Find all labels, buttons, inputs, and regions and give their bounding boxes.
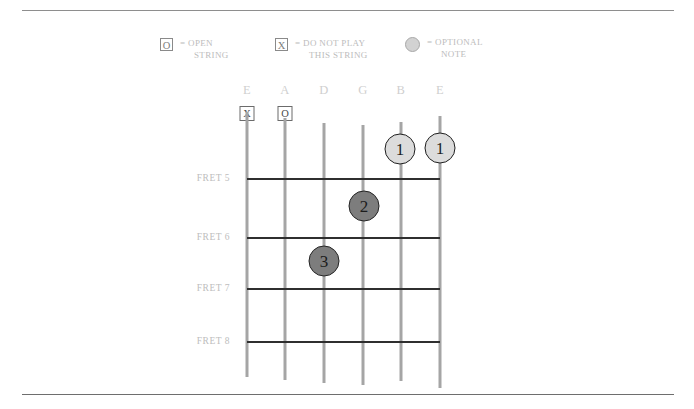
finger-position-3-string-D: 3 bbox=[309, 246, 340, 277]
chord-diagram: EXAODGBEFRET 5FRET 6FRET 7FRET 81123 bbox=[0, 0, 694, 409]
fret-label-7: FRET 7 bbox=[130, 284, 230, 294]
string-label-e: E bbox=[436, 84, 444, 97]
finger-position-1-string-e: 1 bbox=[425, 133, 456, 164]
string-label-G: G bbox=[358, 84, 368, 97]
fret-line-8 bbox=[247, 341, 440, 343]
finger-position-2-string-G: 2 bbox=[349, 191, 380, 222]
string-E bbox=[246, 112, 249, 377]
fret-line-7 bbox=[247, 288, 440, 290]
fret-label-8: FRET 8 bbox=[130, 337, 230, 347]
fret-label-5: FRET 5 bbox=[130, 174, 230, 184]
string-G bbox=[362, 125, 365, 385]
fret-line-6 bbox=[247, 237, 440, 239]
string-label-D: D bbox=[319, 84, 329, 97]
string-label-A: A bbox=[280, 84, 290, 97]
fret-label-6: FRET 6 bbox=[130, 233, 230, 243]
string-label-E: E bbox=[243, 84, 251, 97]
fret-line-5 bbox=[247, 178, 440, 180]
finger-position-1-string-B: 1 bbox=[385, 134, 416, 165]
string-label-B: B bbox=[397, 84, 406, 97]
